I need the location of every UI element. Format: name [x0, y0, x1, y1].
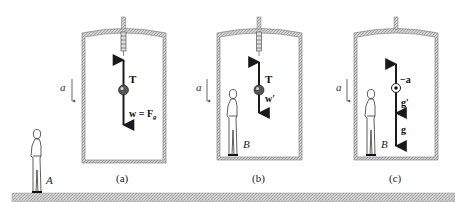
sphere-mass — [254, 85, 264, 95]
observer-a-figure — [31, 130, 42, 194]
observer-b-label: B — [381, 138, 388, 150]
observer-b-label: B — [243, 138, 250, 150]
accel-label-c: a — [336, 81, 342, 93]
spring-scale-icon — [121, 32, 126, 56]
caption-c: (c) — [389, 172, 402, 185]
spring-scale-icon — [257, 32, 262, 56]
weight-subscript: g — [152, 113, 157, 121]
observer-b-figure — [227, 90, 238, 157]
panel-b: T w′ B a (b) — [196, 17, 302, 185]
observer-a-label: A — [45, 174, 53, 186]
accel-label-b: a — [196, 81, 202, 93]
neg-accel-label: −a — [400, 74, 411, 85]
panel-a: T w = Fg a (a) — [60, 17, 166, 185]
gravity-label: g — [401, 124, 406, 135]
caption-b: (b) — [252, 172, 265, 185]
accel-label-a: a — [60, 81, 66, 93]
apparent-weight-label: w′ — [265, 93, 275, 104]
sphere-mass — [119, 85, 129, 95]
svg-text:w = Fg: w = Fg — [129, 108, 157, 121]
effective-gravity-label: g′ — [401, 97, 409, 108]
caption-a: (a) — [116, 172, 129, 185]
panel-c: −a g′ g B a (c) — [336, 17, 438, 185]
tension-label: T — [265, 73, 273, 85]
weight-label: w = F — [129, 108, 153, 119]
observer-b-figure — [365, 90, 376, 157]
ground — [12, 193, 455, 202]
tension-label: T — [129, 73, 137, 85]
elevator-frames-diagram: A T w = Fg a (a) — [0, 0, 455, 202]
